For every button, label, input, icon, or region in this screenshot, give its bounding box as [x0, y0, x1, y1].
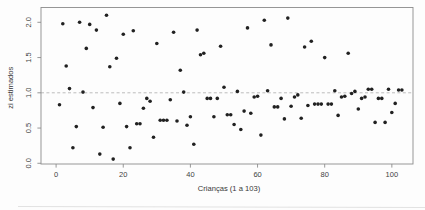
data-point [128, 146, 132, 150]
data-point [222, 85, 226, 89]
x-tick-label: 80 [321, 170, 329, 179]
data-point [165, 119, 169, 123]
data-point [310, 40, 314, 44]
data-point [263, 18, 267, 22]
data-point [212, 115, 216, 119]
data-point [88, 23, 92, 27]
data-point [209, 97, 213, 101]
data-point [58, 103, 62, 107]
data-point [246, 26, 250, 30]
data-point [346, 52, 350, 56]
y-tick-label: 1.5 [24, 52, 33, 62]
data-point [387, 88, 391, 92]
data-point [179, 68, 183, 72]
data-point [226, 113, 230, 117]
data-point [108, 65, 112, 69]
data-point [340, 95, 344, 99]
x-tick-label: 40 [186, 170, 194, 179]
data-point [313, 102, 317, 106]
data-point [189, 115, 193, 119]
data-point [357, 107, 361, 111]
data-point [256, 95, 260, 99]
data-point [353, 90, 357, 94]
data-point [336, 114, 340, 118]
data-point [232, 123, 236, 127]
data-point [68, 87, 72, 91]
data-point [202, 52, 206, 56]
data-point [142, 107, 146, 111]
x-tick-label: 20 [119, 170, 127, 179]
data-point [363, 95, 367, 99]
data-point [273, 105, 277, 109]
data-point [148, 100, 152, 104]
data-point [373, 121, 377, 125]
data-point [162, 119, 166, 123]
data-point [98, 152, 102, 156]
data-point [350, 92, 354, 96]
data-point [299, 116, 303, 120]
data-point [397, 88, 401, 92]
data-point [105, 14, 109, 18]
data-point [239, 128, 243, 132]
data-point [229, 113, 233, 117]
page-artifact-line [18, 207, 425, 208]
scatter-plot: 0204060801000.00.51.01.52.0Crianças (1 a… [0, 0, 425, 210]
data-point [152, 135, 156, 139]
data-point [360, 97, 364, 101]
data-point [296, 93, 300, 97]
data-point [283, 117, 287, 121]
data-point [276, 105, 280, 109]
data-point [393, 102, 397, 106]
data-point [61, 22, 65, 26]
data-point [182, 90, 186, 94]
data-point [219, 45, 223, 49]
data-point [101, 126, 105, 130]
data-point [111, 157, 115, 161]
data-point [323, 56, 327, 60]
data-point [306, 104, 310, 108]
x-axis-title: Crianças (1 a 103) [198, 184, 261, 193]
x-tick-label: 0 [54, 170, 58, 179]
y-tick-label: 0.5 [24, 123, 33, 133]
x-tick-label: 100 [386, 170, 399, 179]
data-point [135, 122, 139, 126]
data-point [175, 119, 179, 123]
data-point [122, 33, 126, 37]
data-point [266, 89, 270, 93]
data-point [205, 97, 209, 101]
data-point [377, 97, 381, 101]
y-tick-label: 2.0 [24, 17, 33, 27]
data-point [236, 90, 240, 94]
data-point [169, 98, 173, 102]
data-point [303, 45, 307, 49]
data-point [343, 95, 347, 99]
data-point [249, 111, 253, 115]
data-point [370, 88, 374, 92]
data-point [85, 47, 89, 51]
data-point [115, 57, 119, 61]
data-point [383, 121, 387, 125]
data-point [330, 102, 334, 106]
data-point [75, 125, 79, 129]
y-tick-label: 1.0 [24, 88, 33, 98]
data-point [216, 97, 220, 101]
data-point [269, 43, 273, 47]
data-point [316, 102, 320, 106]
y-axis-title: zi estimados [6, 66, 15, 108]
data-point [78, 21, 82, 25]
data-point [289, 104, 293, 108]
data-point [91, 106, 95, 110]
data-point [242, 109, 246, 113]
data-point [195, 28, 199, 32]
data-point [158, 119, 162, 123]
x-tick-label: 60 [253, 170, 261, 179]
data-point [81, 90, 85, 94]
data-point [155, 42, 159, 46]
data-point [333, 89, 337, 93]
data-point [138, 122, 142, 126]
data-point [71, 146, 75, 150]
data-point [252, 95, 256, 99]
data-point [118, 102, 122, 106]
data-point [192, 143, 196, 147]
data-point [320, 102, 324, 106]
